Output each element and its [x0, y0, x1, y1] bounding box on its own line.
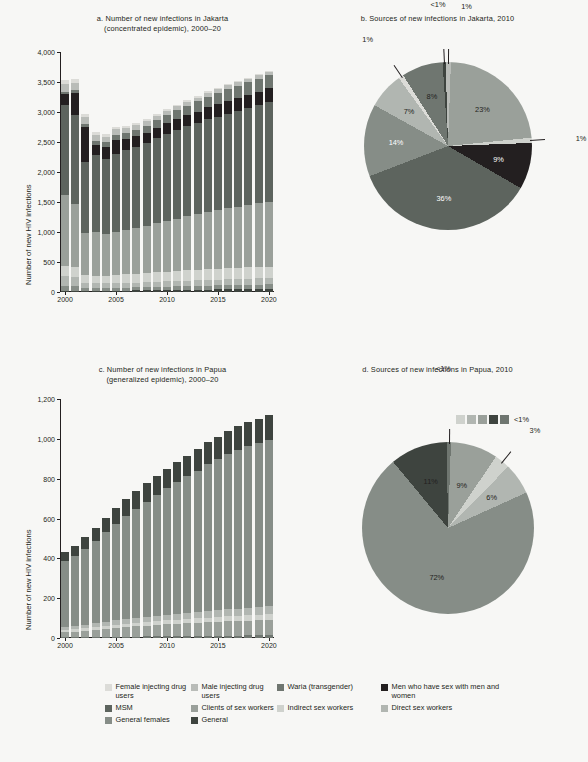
pie-slice-label: 36% — [437, 193, 452, 202]
bar-column — [213, 399, 223, 638]
y-tick — [57, 172, 60, 173]
legend-item-direct-sex-workers[interactable]: Direct sex workers — [381, 703, 501, 712]
bar-column — [254, 52, 264, 292]
bar-segment — [255, 92, 263, 106]
bar-segment — [194, 623, 202, 636]
bar-segment — [204, 119, 212, 211]
y-tick-label: 2,500 — [37, 139, 55, 146]
bar-segment — [153, 138, 161, 223]
pie-slice-label: 23% — [475, 105, 490, 114]
bar-segment — [102, 532, 110, 621]
y-tick — [57, 232, 60, 233]
bar-segment — [183, 636, 191, 638]
legend-item-indirect-sex-workers[interactable]: Indirect sex workers — [277, 703, 381, 712]
bar-segment — [102, 276, 110, 284]
y-tick — [57, 598, 60, 599]
bar-column — [243, 399, 253, 638]
bar-segment — [183, 126, 191, 216]
legend-label-general-females: General females — [116, 715, 170, 724]
y-tick — [57, 112, 60, 113]
bar-segment — [132, 290, 140, 292]
bar-segment — [183, 106, 191, 116]
bar-column — [162, 52, 172, 292]
pie-slice-label: <1% — [430, 0, 445, 8]
legend-item-general[interactable]: General — [191, 715, 277, 724]
legend-item-waria-transgender[interactable]: Waria (transgender) — [277, 682, 381, 691]
bar-column — [254, 399, 264, 638]
bar-segment — [173, 482, 181, 613]
bar-column — [111, 52, 121, 292]
pie-slice-label: 3% — [530, 425, 541, 434]
chart-c: Number of new HIV infections 02004006008… — [0, 352, 290, 662]
legend-item-female-injecting-drug-users[interactable]: Female injecting drug users — [105, 682, 191, 701]
bar-segment — [143, 636, 151, 638]
bar-segment — [265, 202, 273, 267]
bar-segment — [132, 626, 140, 636]
legend-swatch-general-females — [105, 717, 112, 724]
bar-segment — [214, 210, 222, 269]
pie-slice-label: 1% — [461, 1, 472, 10]
bar-segment — [173, 624, 181, 636]
pie-slice-label: 14% — [389, 138, 404, 147]
bar-segment — [163, 488, 171, 614]
y-tick-label: 3,500 — [37, 79, 55, 86]
bar-segment — [244, 635, 252, 638]
bar-segment — [224, 431, 232, 454]
bar-segment — [255, 443, 263, 607]
bar-segment — [244, 446, 252, 608]
bar-segment — [132, 274, 140, 283]
chart-c-y-axis-title: Number of new HIV infections — [24, 530, 33, 630]
bar-segment — [234, 111, 242, 207]
y-tick-label: 400 — [43, 555, 55, 562]
y-tick-label: 4,000 — [37, 49, 55, 56]
x-tick-label: 2015 — [210, 296, 226, 303]
bar-column — [80, 52, 90, 292]
bar-segment — [214, 269, 222, 280]
bar-segment — [173, 271, 181, 281]
x-tick-label: 2020 — [261, 296, 277, 303]
bar-segment — [143, 133, 151, 143]
bar-segment — [173, 219, 181, 271]
legend-item-general-females[interactable]: General females — [105, 715, 191, 724]
bar-segment — [204, 107, 212, 119]
bar-segment — [194, 449, 202, 470]
y-tick — [57, 399, 60, 400]
bar-segment — [122, 150, 130, 230]
legend-item-men-who-have-sex-with-men-and-women[interactable]: Men who have sex with men and women — [381, 682, 501, 701]
bar-segment — [204, 636, 212, 638]
bar-segment — [92, 630, 100, 637]
legend-item-male-injecting-drug-users[interactable]: Male injecting drug users — [191, 682, 277, 701]
y-tick-label: 0 — [51, 289, 55, 296]
bar-column — [264, 399, 274, 638]
legend-swatch-female-injecting-drug-users — [105, 684, 112, 691]
bar-column — [192, 52, 202, 292]
y-tick-label: 1,000 — [37, 435, 55, 442]
mini-legend-label: <1% — [514, 415, 529, 424]
bar-segment — [255, 203, 263, 267]
bar-segment — [173, 110, 181, 119]
bar-segment — [112, 275, 120, 283]
bar-column — [121, 399, 131, 638]
bar-segment — [265, 88, 273, 102]
bar-segment — [143, 502, 151, 617]
bar-segment — [244, 108, 252, 205]
bar-segment — [71, 93, 79, 115]
x-tick — [167, 292, 168, 295]
legend-item-msm[interactable]: MSM — [105, 703, 191, 712]
bar-segment — [71, 556, 79, 626]
bar-segment — [214, 459, 222, 610]
leader-line — [448, 49, 449, 64]
chart-a-plot-area: 05001,0001,5002,0002,5003,0003,5004,0002… — [60, 52, 274, 292]
legend-item-clients-of-sex-workers[interactable]: Clients of sex workers — [191, 703, 277, 712]
bar-segment — [81, 637, 89, 638]
legend-label-clients-of-sex-workers: Clients of sex workers — [202, 703, 274, 712]
bar-segment — [122, 627, 130, 637]
bar-column — [142, 399, 152, 638]
leader-line — [530, 139, 545, 141]
y-tick-label: 0 — [51, 635, 55, 642]
x-tick-label: 2000 — [57, 642, 73, 649]
bar-segment — [214, 610, 222, 617]
x-tick — [218, 292, 219, 295]
y-tick — [57, 292, 60, 293]
bar-segment — [194, 471, 202, 612]
